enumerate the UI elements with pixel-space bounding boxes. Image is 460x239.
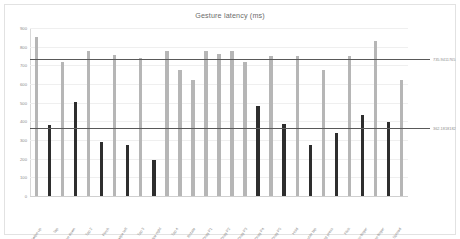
bar [35, 37, 38, 196]
x-axis-tick-label: Three finger [370, 227, 385, 239]
x-axis-tick-label: Pinch [102, 227, 111, 237]
reference-line [30, 59, 430, 60]
y-axis-tick-label: 800 [20, 44, 27, 49]
x-axis-tick-label: Swipe left [115, 227, 128, 239]
bar [269, 56, 272, 196]
gridline [30, 47, 408, 48]
y-axis-tick-label: 100 [20, 175, 27, 180]
bar [191, 80, 194, 196]
bar [165, 51, 168, 196]
bar [400, 80, 403, 196]
x-axis-tick-label: Double tap [303, 227, 317, 239]
y-axis-tick-label: 300 [20, 138, 27, 143]
x-axis-tick-label: Drag P2 [220, 227, 231, 239]
bar [374, 41, 377, 196]
bar [139, 58, 142, 197]
y-axis-tick-label: 600 [20, 82, 27, 87]
plot-area: 9008007006005004003002001000735.94117653… [30, 28, 408, 196]
y-axis-tick-label: 700 [20, 63, 27, 68]
bar [282, 124, 285, 196]
bar [48, 125, 51, 196]
reference-line [30, 128, 430, 129]
x-axis-tick-label: Swipe up [30, 227, 42, 239]
bar [152, 160, 155, 196]
bar [113, 55, 116, 196]
chart-title: Gesture latency (ms) [0, 11, 460, 20]
x-axis-tick-label: Drag P3 [237, 227, 248, 239]
bar [87, 51, 90, 196]
bar [309, 145, 312, 196]
bar [100, 142, 103, 196]
x-axis-tick-label: Long press [320, 227, 334, 239]
bar [178, 70, 181, 196]
reference-line-label: 362.1818182 [433, 126, 456, 131]
x-axis-tick-label: Swipe right [148, 227, 162, 239]
x-axis-tick-label: Rotate [187, 227, 197, 238]
y-axis-tick-label: 500 [20, 100, 27, 105]
y-axis-tick-label: 0 [25, 194, 27, 199]
gridline [30, 28, 408, 29]
x-axis-tick-label: Spread [392, 227, 402, 239]
bar [335, 133, 338, 196]
bar [204, 51, 207, 196]
x-axis-line [30, 196, 408, 197]
y-axis-tick-label: 200 [20, 156, 27, 161]
x-axis-tick-label: Tap 3 [136, 227, 145, 237]
x-axis-tick-label: Two finger [355, 227, 368, 239]
chart-screenshot: Gesture latency (ms) 9008007006005004003… [0, 0, 460, 239]
x-axis-tick-label: Hold [292, 227, 300, 236]
x-axis-tick-label: Tap 2 [85, 227, 94, 237]
bar [296, 56, 299, 196]
y-axis-tick-label: 400 [20, 119, 27, 124]
reference-line-label: 735.9411765 [433, 56, 455, 61]
x-axis-tick-label: Drag P4 [254, 227, 265, 239]
bar [74, 102, 77, 196]
x-axis-tick-label: Flick [343, 227, 351, 236]
x-axis-tick-label: Tap 4 [171, 227, 180, 237]
x-axis-tick-label: Drag P1 [202, 227, 213, 239]
x-axis-tick-label: Drag P5 [271, 227, 282, 239]
bar [126, 145, 129, 196]
x-axis-tick-label: Swipe down [61, 227, 76, 239]
y-axis-tick-label: 900 [20, 26, 27, 31]
bar [217, 54, 220, 196]
bar [230, 51, 233, 196]
bar [322, 70, 325, 196]
x-axis-tick-label: Tap [52, 227, 59, 234]
bar [387, 122, 390, 196]
bar [256, 106, 259, 196]
bar [348, 56, 351, 196]
